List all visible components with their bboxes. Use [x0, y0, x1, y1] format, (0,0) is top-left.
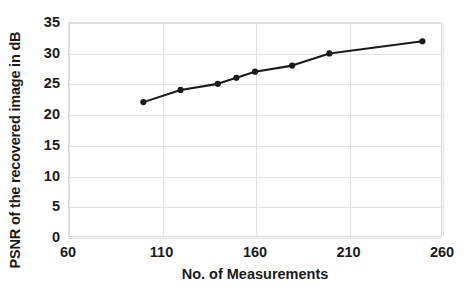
- gridline-vertical: [443, 23, 444, 236]
- y-axis-title: PSNR of the recovered image in dB: [2, 24, 28, 276]
- y-tick-label: 15: [30, 138, 60, 153]
- data-point-marker: [252, 69, 258, 75]
- x-tick-label: 160: [225, 245, 285, 260]
- psnr-line-chart: PSNR of the recovered image in dB 051015…: [0, 0, 475, 298]
- y-tick-label: 20: [30, 107, 60, 122]
- gridline-horizontal: [69, 238, 441, 239]
- y-tick-label: 0: [30, 230, 60, 245]
- data-point-marker: [215, 81, 221, 87]
- x-tick-label: 210: [319, 245, 379, 260]
- series-markers: [140, 38, 425, 105]
- y-tick-label: 5: [30, 199, 60, 214]
- y-tick-label: 35: [30, 15, 60, 30]
- data-point-marker: [326, 50, 332, 56]
- x-tick-label: 110: [132, 245, 192, 260]
- data-point-marker: [289, 63, 295, 69]
- x-tick-label: 260: [412, 245, 472, 260]
- x-tick-label: 60: [38, 245, 98, 260]
- data-point-marker: [233, 75, 239, 81]
- y-tick-label: 25: [30, 76, 60, 91]
- plot-area: [68, 22, 442, 237]
- data-series-psnr: [69, 23, 441, 236]
- x-axis-title: No. of Measurements: [68, 266, 442, 282]
- data-point-marker: [178, 87, 184, 93]
- y-tick-label: 10: [30, 169, 60, 184]
- y-tick-label: 30: [30, 46, 60, 61]
- data-point-marker: [140, 99, 146, 105]
- series-line: [143, 41, 422, 102]
- data-point-marker: [419, 38, 425, 44]
